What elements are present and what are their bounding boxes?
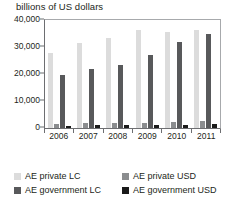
- legend-swatch-icon: [122, 187, 129, 194]
- bar: [165, 32, 170, 128]
- y-axis-tick-label: 10,000: [14, 95, 40, 105]
- legend-swatch-icon: [122, 173, 129, 180]
- bar: [112, 123, 117, 128]
- bar-group: [105, 20, 131, 128]
- bar: [54, 124, 59, 128]
- bar: [95, 125, 100, 128]
- bar: [142, 123, 147, 128]
- legend-item[interactable]: AE private USD: [122, 171, 231, 181]
- legend-item[interactable]: AE government LC: [14, 185, 122, 195]
- y-axis-tick-label: 20,000: [14, 68, 40, 78]
- bar: [66, 126, 71, 128]
- bar: [200, 121, 205, 128]
- legend-item[interactable]: AE private LC: [14, 171, 122, 181]
- bar-group: [47, 20, 73, 128]
- x-axis-tick-label: 2008: [105, 131, 131, 141]
- legend-swatch-icon: [14, 173, 21, 180]
- chart-container: billions of US dollars 010,00020,00030,0…: [0, 0, 231, 206]
- bar-group: [163, 20, 189, 128]
- bar: [77, 43, 82, 128]
- bar: [171, 122, 176, 128]
- legend-label: AE private LC: [25, 171, 81, 181]
- bar: [106, 38, 111, 128]
- x-axis-labels: 200620072008200920102011: [44, 131, 221, 141]
- bar: [118, 65, 123, 128]
- x-axis-tick-label: 2011: [193, 131, 219, 141]
- chart-title: billions of US dollars: [16, 1, 103, 12]
- x-axis-tick-label: 2009: [134, 131, 160, 141]
- bar: [177, 42, 182, 128]
- bar: [148, 55, 153, 128]
- bar: [194, 30, 199, 128]
- bar-group: [76, 20, 102, 128]
- bar: [212, 124, 217, 128]
- legend-item[interactable]: AE government USD: [122, 185, 231, 195]
- bar: [154, 125, 159, 128]
- legend-label: AE government USD: [133, 185, 217, 195]
- y-axis-tick-label: 40,000: [14, 14, 40, 24]
- bar: [60, 75, 65, 128]
- bar: [206, 34, 211, 128]
- bar: [183, 125, 188, 129]
- x-axis-tick-label: 2007: [75, 131, 101, 141]
- bar: [83, 123, 88, 128]
- legend-label: AE private USD: [133, 171, 196, 181]
- legend-label: AE government LC: [25, 185, 101, 195]
- y-axis-tick-label: 30,000: [14, 41, 40, 51]
- bar-group: [193, 20, 219, 128]
- bar: [124, 125, 129, 128]
- bar-groups: [45, 20, 220, 128]
- y-axis-labels: 010,00020,00030,00040,000: [0, 13, 40, 135]
- legend-swatch-icon: [14, 187, 21, 194]
- bar-group: [134, 20, 160, 128]
- chart-legend: AE private LCAE private USDAE government…: [14, 169, 231, 197]
- bar: [89, 69, 94, 128]
- plot-area: [44, 19, 221, 129]
- x-axis-tick-label: 2006: [46, 131, 72, 141]
- bar: [48, 53, 53, 128]
- bar: [136, 30, 141, 128]
- x-axis-tick-label: 2010: [164, 131, 190, 141]
